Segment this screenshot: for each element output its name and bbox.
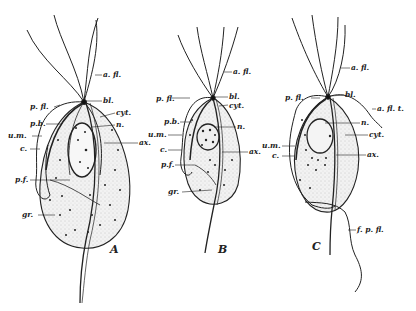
label-b-anterior-flagella: a. fl. <box>233 68 251 76</box>
label-c-anterior-flagella: a. fl. <box>351 64 369 72</box>
label-c-posterior-flagellum: p. fl. <box>285 94 304 102</box>
label-b-nucleus: n. <box>237 123 245 131</box>
label-a-posterior-flagellum: p. fl. <box>30 103 49 111</box>
trichomonad-figure <box>0 0 416 311</box>
label-a-parabasal-fibril: p.f. <box>15 176 28 184</box>
label-b-blepharoplast: bl. <box>229 93 240 101</box>
label-c-cytostome: cyt. <box>369 131 384 139</box>
label-a-anterior-flagella: a. fl. <box>103 71 121 79</box>
label-b-parabasal-body: p.b. <box>164 118 180 126</box>
label-c-nucleus: n. <box>361 119 369 127</box>
label-c-blepharoplast: bl. <box>345 91 356 99</box>
label-c-free-posterior-flagellum: f. p. fl. <box>357 226 384 234</box>
label-b-granules: gr. <box>168 188 179 196</box>
label-a-cytostome: cyt. <box>116 109 131 117</box>
label-a-costa: c. <box>20 145 27 153</box>
label-b-parabasal-fibril: p.f. <box>161 161 174 169</box>
label-a-axostyle: ax. <box>139 139 151 147</box>
label-a-undulating-membrane: u.m. <box>8 132 27 140</box>
label-b-cytostome: cyt. <box>229 102 244 110</box>
label-a-parabasal-body: p.b. <box>30 120 46 128</box>
label-a-nucleus: n. <box>116 121 124 129</box>
label-c-anterior-flagella-tail: a. fl. t. <box>377 105 404 113</box>
label-b-undulating-membrane: u.m. <box>148 131 167 139</box>
label-b-costa: c. <box>160 146 167 154</box>
label-a-granules: gr. <box>22 211 33 219</box>
label-c-undulating-membrane: u.m. <box>262 142 281 150</box>
label-c-costa: c. <box>272 152 279 160</box>
label-c-axostyle: ax. <box>367 151 379 159</box>
organism-a <box>27 15 130 303</box>
panel-letter-c: C <box>312 240 321 253</box>
label-b-axostyle: ax. <box>249 148 261 156</box>
panel-letter-a: A <box>110 243 119 256</box>
label-a-blepharoplast: bl. <box>103 97 114 105</box>
label-b-posterior-flagellum: p. fl. <box>156 95 175 103</box>
panel-letter-b: B <box>218 243 227 256</box>
organism-b <box>178 27 240 253</box>
